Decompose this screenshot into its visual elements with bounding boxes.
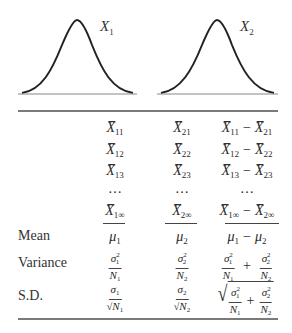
mean-diff: μ1−μ2 [228,229,267,246]
variance-col1: σ21N1 [108,249,123,285]
sample-mean-x22: X22 [173,142,191,159]
sample-mean-x2-inf: X2∞ [172,203,191,220]
sample-mean-x1-inf: X1∞ [105,203,124,220]
row-label-variance: Variance [18,255,67,271]
underline-col1 [103,223,125,224]
variance-col2: σ22N2 [175,249,190,285]
ellipsis-col2: … [175,181,189,197]
row-label-mean: Mean [18,228,50,244]
underline-col2 [165,223,197,224]
row-label-sd: S.D. [18,288,43,304]
sd-col2: σ2√N2 [172,283,192,316]
sample-mean-diff-1: X11−X21 [222,120,273,137]
distribution-label-x2: X2 [240,18,254,37]
table-top-rule [18,110,278,112]
sample-mean-diff-inf: X1∞−X2∞ [220,203,275,220]
ellipsis-col1: … [108,181,122,197]
ellipsis-col3: … [240,181,254,197]
sample-mean-x11: X11 [106,120,123,137]
sample-mean-x21: X21 [173,120,191,137]
sample-mean-diff-2: X12−X22 [221,142,272,159]
normal-curve-x2 [161,20,274,93]
distribution-label-x1: X1 [100,18,114,37]
sample-mean-x13: X13 [106,163,124,180]
underline-col3 [225,223,279,224]
normal-curve-x1 [22,20,133,93]
normal-distribution-curves [0,0,292,110]
table-bottom-rule [18,318,278,320]
sample-mean-x23: X23 [173,163,191,180]
sd-col1: σ1√N1 [105,283,125,316]
mean-col2: μ2 [176,229,188,246]
variance-sum: σ21N1 + σ22N2 [221,249,274,285]
sample-mean-x12: X12 [106,142,124,159]
sd-combined: √ σ21N1 + σ22N2 [217,281,274,319]
mean-col1: μ1 [109,229,121,246]
sample-mean-diff-3: X13−X23 [221,163,272,180]
